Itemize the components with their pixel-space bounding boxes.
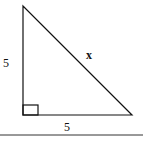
- left-leg-label: 5: [3, 56, 9, 70]
- hypotenuse-label: x: [86, 48, 92, 62]
- right-angle-marker: [23, 105, 38, 115]
- triangle-diagram: 5 x 5: [0, 0, 143, 143]
- bottom-leg-label: 5: [64, 120, 70, 134]
- right-triangle: [23, 6, 132, 115]
